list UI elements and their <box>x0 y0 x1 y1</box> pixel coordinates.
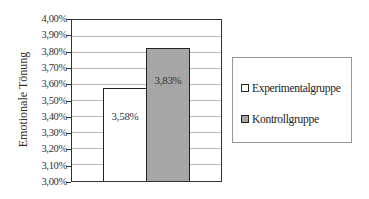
y-tick-label: 3,90% <box>20 29 67 41</box>
y-tick-label: 3,20% <box>20 143 67 155</box>
legend-swatch-gray <box>241 115 249 123</box>
legend: Experimentalgruppe Kontrollgruppe <box>232 57 352 143</box>
y-tick-label: 4,00% <box>20 13 67 25</box>
legend-item-experimentalgruppe: Experimentalgruppe <box>241 82 340 94</box>
y-tick-mark <box>66 182 71 183</box>
y-tick-label: 3,70% <box>20 62 67 74</box>
bar-value-label: 3,58% <box>104 110 146 122</box>
y-tick-label: 3,80% <box>20 46 67 58</box>
y-tick-label: 3,50% <box>20 95 67 107</box>
y-tick-label: 3,00% <box>20 176 67 188</box>
bar-chart: Emotionale Tönung 4,00%3,90%3,80%3,70%3,… <box>0 0 369 199</box>
bar-experimentalgruppe: 3,58% <box>103 88 147 181</box>
y-tick-label: 3,30% <box>20 127 67 139</box>
y-tick-label: 3,40% <box>20 111 67 123</box>
legend-label: Kontrollgruppe <box>252 113 319 125</box>
y-tick-label: 3,60% <box>20 78 67 90</box>
legend-label: Experimentalgruppe <box>252 82 340 94</box>
plot-area: 3,58%3,83% <box>71 19 222 182</box>
legend-swatch-white <box>241 84 249 92</box>
y-tick-label: 3,10% <box>20 160 67 172</box>
gridline <box>72 36 221 37</box>
legend-item-kontrollgruppe: Kontrollgruppe <box>241 113 319 125</box>
bar-kontrollgruppe: 3,83% <box>146 48 190 181</box>
bar-value-label: 3,83% <box>147 74 189 86</box>
